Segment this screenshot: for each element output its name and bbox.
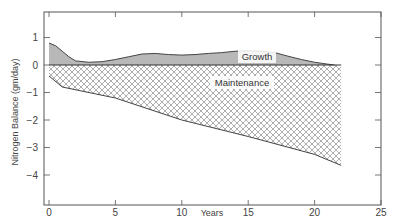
growth-area [49,43,341,65]
x-tick-label: 5 [113,207,119,218]
x-axis-title: Years [201,208,224,218]
y-tick-label: −2 [27,115,39,126]
y-tick-label: −3 [27,142,39,153]
x-tick-label: 15 [243,207,255,218]
maintenance-label: Maintenance [215,77,269,88]
y-tick-label: 0 [32,60,38,71]
x-tick-label: 20 [309,207,321,218]
maintenance-hatch [49,65,341,165]
nitrogen-balance-chart: 051015202510−1−2−3−4 Growth Maintenance … [0,0,399,219]
y-axis-title: Nitrogen Balance (gm/day) [10,58,20,165]
growth-label: Growth [242,51,273,62]
x-tick-label: 10 [176,207,188,218]
maintenance-area [49,65,341,165]
y-tick-label: 1 [32,32,38,43]
y-tick-label: −4 [27,170,39,181]
y-tick-label: −1 [27,87,39,98]
x-tick-label: 25 [375,207,387,218]
x-tick-label: 0 [46,207,52,218]
